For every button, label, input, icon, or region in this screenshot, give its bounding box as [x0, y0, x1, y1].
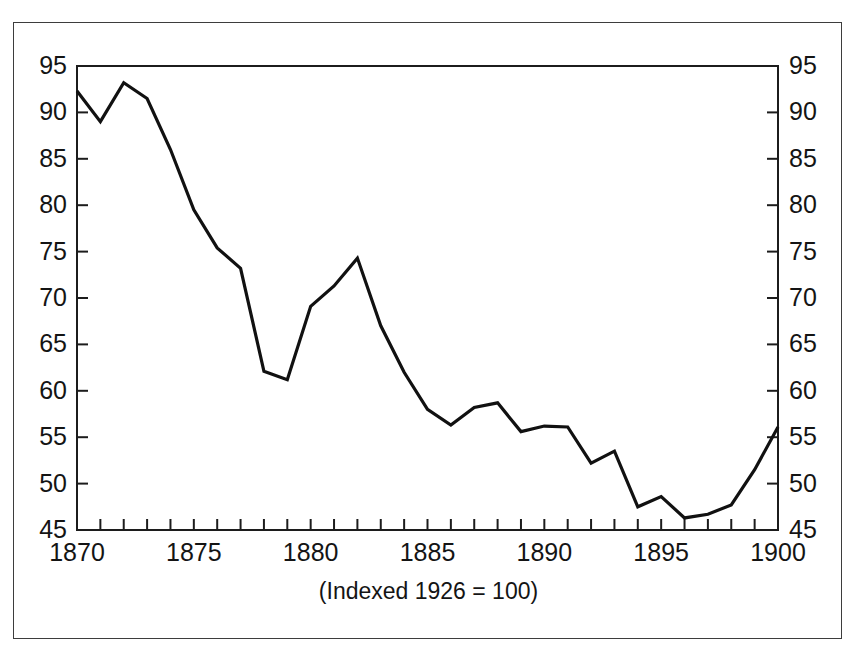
plot-frame: [77, 66, 778, 530]
chart-figure: 9590858075706560555045 95908580757065605…: [0, 0, 857, 661]
y-axis-left-tick-label: 50: [15, 471, 67, 496]
y-axis-right-tick-label: 90: [789, 99, 841, 124]
y-axis-left-tick-label: 55: [15, 424, 67, 449]
y-axis-right-tick-label: 95: [789, 53, 841, 78]
y-axis-left-tick-label: 90: [15, 99, 67, 124]
y-axis-right-tick-label: 80: [789, 192, 841, 217]
x-axis-tick-label: 1870: [22, 540, 132, 565]
y-axis-right-tick-label: 55: [789, 424, 841, 449]
y-axis-left-tick-label: 95: [15, 53, 67, 78]
y-axis-left-tick-label: 80: [15, 192, 67, 217]
x-axis-tick-label: 1885: [373, 540, 483, 565]
y-axis-left-tick-label: 70: [15, 285, 67, 310]
y-axis-right-tick-label: 75: [789, 239, 841, 264]
y-axis-right-tick-label: 70: [789, 285, 841, 310]
chart-caption: (Indexed 1926 = 100): [0, 578, 857, 605]
y-axis-right-tick-label: 50: [789, 471, 841, 496]
y-axis-right-tick-label: 60: [789, 378, 841, 403]
x-axis-tick-label: 1880: [256, 540, 366, 565]
x-axis-tick-label: 1895: [606, 540, 716, 565]
y-axis-left-tick-label: 85: [15, 146, 67, 171]
y-axis-right-tick-label: 85: [789, 146, 841, 171]
x-axis-tick-label: 1890: [489, 540, 599, 565]
y-axis-left-tick-label: 65: [15, 331, 67, 356]
x-axis-tick-label: 1875: [139, 540, 249, 565]
y-axis-left-tick-label: 60: [15, 378, 67, 403]
y-axis-right-tick-label: 65: [789, 331, 841, 356]
y-axis-left-tick-label: 75: [15, 239, 67, 264]
x-axis-tick-label: 1900: [723, 540, 833, 565]
